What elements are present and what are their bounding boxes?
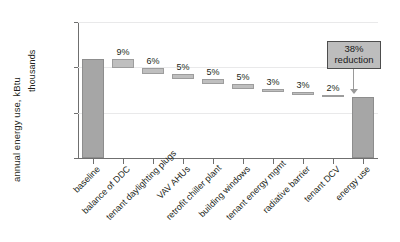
bar-data-label: 6% [138, 56, 168, 66]
bar-data-label: 5% [198, 67, 228, 77]
gridline [78, 113, 378, 114]
x-axis-label-tenant-energy-mgmt: tenant energy mgmt [224, 164, 282, 222]
bar-data-label: 9% [108, 47, 138, 57]
callout-line-2: reduction [334, 55, 373, 66]
bar-step [142, 68, 164, 74]
waterfall-chart: annual energy use, kBtu thousands 9%6%5%… [0, 0, 400, 242]
y-axis-units-label: thousands [27, 50, 37, 92]
bar-data-label: 3% [258, 77, 288, 87]
bar-step [232, 84, 254, 89]
reduction-callout: 38% reduction [327, 41, 381, 69]
callout-arrowhead-icon [350, 89, 358, 94]
bar-data-label: 2% [318, 83, 348, 93]
bar-step [292, 92, 314, 95]
x-axis-label-retrofit-chiller-plant: retrofit chiller plant [164, 164, 222, 222]
y-axis-line [78, 22, 79, 159]
x-axis-label-vav-ahus: VAV AHUs [134, 164, 192, 222]
bar-step [112, 59, 134, 68]
x-axis-label-energy-use: energy use [314, 164, 372, 222]
x-axis-label-building-windows: building windows [194, 164, 252, 222]
x-axis-label-tenant-dcv: tenant DCV [284, 164, 342, 222]
x-axis-label-baseline: baseline [44, 164, 102, 222]
callout-leader-line [353, 69, 354, 91]
y-axis-tick [74, 22, 78, 23]
bar-step [172, 74, 194, 79]
x-axis-label-radiative-barrier: radiative barrier [254, 164, 312, 222]
bar-data-label: 3% [288, 80, 318, 90]
bar-step [262, 89, 284, 92]
bar-data-label: 5% [168, 62, 198, 72]
bar-total [352, 97, 374, 158]
bar-step [202, 79, 224, 84]
bar-total [82, 59, 104, 158]
y-axis-tick [74, 158, 78, 159]
y-axis-tick [74, 113, 78, 114]
y-axis-title: annual energy use, kBtu [11, 77, 22, 182]
bar-step [322, 95, 344, 97]
y-axis-tick [74, 67, 78, 68]
x-axis-label-balance-of-ddc: balance of DDC [74, 164, 132, 222]
x-axis-label-tenant-daylighting-plugs: tenant daylighting plugs [104, 164, 162, 222]
gridline [78, 22, 378, 23]
bar-data-label: 5% [228, 72, 258, 82]
